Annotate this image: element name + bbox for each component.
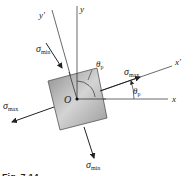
sigma-min-label-bottom: σmin [86,159,100,171]
sigma-min-arrow-bottom [84,127,94,158]
sigma-min-arrow-top [46,43,62,68]
sigma-max-label-right: σmax [124,66,139,78]
y-prime-axis-label: y' [38,10,46,20]
figure-caption: Fig. 7-14 [2,172,39,176]
sigma-max-arrow-left [12,107,54,122]
theta-p-label-lower: θp [133,86,140,97]
origin-point [75,97,78,100]
origin-label: O [64,94,71,105]
sigma-min-label-top: σmin [36,43,50,55]
stress-element-diagram: O y y' x x' θp θp σmin σmax σmax σmin Fi… [0,0,184,176]
theta-p-label-upper: θp [96,59,103,70]
sigma-max-label-left: σmax [3,100,18,112]
y-axis-label: y [79,4,84,14]
x-axis-label: x [171,94,176,104]
x-prime-axis-label: x' [174,57,182,67]
